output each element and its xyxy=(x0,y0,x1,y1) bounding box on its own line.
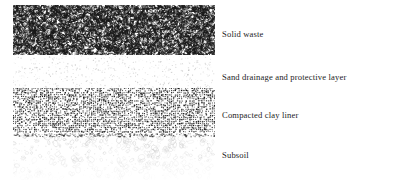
layer-label-compacted-clay-liner: Compacted clay liner xyxy=(222,111,299,120)
layer-subsoil-texture xyxy=(13,133,215,180)
landfill-cross-section-figure: Solid waste Sand drainage and protective… xyxy=(0,0,397,182)
layer-label-subsoil: Subsoil xyxy=(222,151,249,160)
layer-compacted-clay-liner-texture xyxy=(13,88,215,133)
layer-solid-waste-texture xyxy=(13,5,215,55)
layer-label-sand-drainage: Sand drainage and protective layer xyxy=(222,73,346,82)
layer-texture-stack xyxy=(13,0,215,182)
layer-sand-drainage-texture xyxy=(13,55,215,88)
layer-label-solid-waste: Solid waste xyxy=(222,30,264,39)
